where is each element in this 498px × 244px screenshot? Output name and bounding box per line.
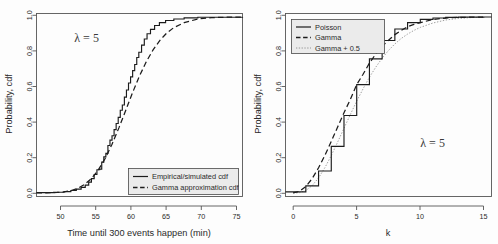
- x-axis-title: Time until 300 events happen (min): [67, 228, 211, 238]
- legend-label: Empirical/simulated cdf: [152, 172, 229, 181]
- x-tick-label: 0: [291, 212, 295, 221]
- legend-label: Poisson: [315, 23, 341, 32]
- figure-container: 0.0 0.2 0.4 0.6 0.8 1.0 Probability, cdf…: [0, 0, 498, 244]
- y-axis-title: Probability, cdf: [4, 74, 14, 134]
- x-tick-label: 60: [127, 212, 135, 221]
- x-axis-right: 0 5 10 15: [291, 206, 487, 221]
- x-tick-label: 55: [92, 212, 100, 221]
- x-axis-left: 50 55 60 65 70 75: [57, 206, 241, 221]
- series-empirical-step: [37, 17, 243, 193]
- left-plot-svg: 0.0 0.2 0.4 0.6 0.8 1.0 Probability, cdf…: [0, 0, 249, 244]
- y-tick-label: 0.8: [274, 46, 283, 56]
- legend-label: Gamma approximation cdf: [152, 183, 240, 192]
- x-tick-label: 5: [355, 212, 359, 221]
- y-tick-label: 1.0: [25, 10, 34, 20]
- y-axis-right: 0.0 0.2 0.4 0.6 0.8 1.0: [274, 10, 286, 198]
- x-tick-label: 65: [162, 212, 170, 221]
- lambda-annotation: λ = 5: [420, 136, 445, 150]
- y-tick-label: 0.0: [25, 188, 34, 198]
- y-tick-label: 0.4: [25, 117, 34, 127]
- legend-label: Gamma + 0.5: [315, 44, 360, 53]
- x-tick-label: 10: [416, 212, 424, 221]
- y-tick-label: 0.4: [274, 117, 283, 127]
- chart-panel-right: 0.0 0.2 0.4 0.6 0.8 1.0 Probability, cdf…: [249, 0, 498, 244]
- legend-left: Empirical/simulated cdf Gamma approximat…: [129, 169, 240, 195]
- legend-label: Gamma: [315, 33, 342, 42]
- x-tick-label: 70: [197, 212, 205, 221]
- y-axis-left: 0.0 0.2 0.4 0.6 0.8 1.0: [25, 10, 37, 198]
- y-tick-label: 0.2: [274, 153, 283, 163]
- y-tick-label: 0.0: [274, 188, 283, 198]
- x-tick-label: 75: [233, 212, 241, 221]
- x-tick-label: 50: [57, 212, 65, 221]
- y-tick-label: 1.0: [274, 10, 283, 20]
- chart-panel-left: 0.0 0.2 0.4 0.6 0.8 1.0 Probability, cdf…: [0, 0, 249, 244]
- lambda-annotation: λ = 5: [74, 31, 99, 45]
- right-plot-svg: 0.0 0.2 0.4 0.6 0.8 1.0 Probability, cdf…: [249, 0, 498, 244]
- y-tick-label: 0.2: [25, 153, 34, 163]
- series-gamma-approximation: [37, 17, 243, 193]
- y-tick-label: 0.6: [274, 82, 283, 92]
- x-tick-label: 15: [480, 212, 488, 221]
- legend-right: Poisson Gamma Gamma + 0.5: [292, 20, 385, 54]
- x-axis-title: k: [386, 228, 391, 238]
- y-axis-title: Probability, cdf: [253, 74, 263, 134]
- y-tick-label: 0.6: [25, 82, 34, 92]
- y-tick-label: 0.8: [25, 46, 34, 56]
